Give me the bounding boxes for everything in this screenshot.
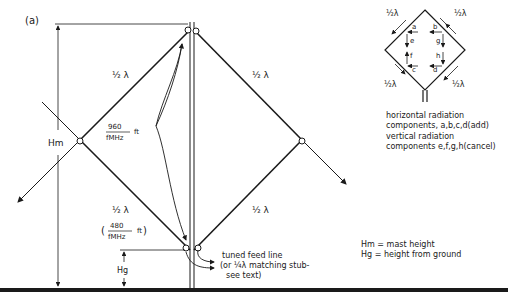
feed-note-line-3: see text) [226, 271, 261, 280]
svg-text:½λ: ½λ [452, 80, 465, 89]
svg-text:fMHz: fMHz [108, 233, 126, 241]
feed-note-line-1: tuned feed line [222, 251, 283, 260]
hg-label: Hg [117, 266, 128, 275]
brace-curve [156, 44, 186, 240]
inset-caption-2: components, a,b,c,d(add) [386, 121, 489, 130]
ground-line [0, 288, 508, 292]
element-label-lower-right: ½ λ [252, 205, 270, 215]
svg-text:f: f [410, 52, 413, 60]
svg-text:h: h [436, 52, 440, 60]
radiation-arrows [18, 102, 346, 202]
hm-label: Hm [48, 138, 64, 148]
element-label-upper-left: ½ λ [112, 70, 130, 80]
panel-label: (a) [25, 15, 39, 26]
svg-text:c: c [412, 66, 416, 74]
svg-text:½λ: ½λ [454, 9, 467, 18]
svg-text:½λ: ½λ [384, 80, 397, 89]
svg-text:ft: ft [134, 128, 139, 136]
quad-antenna-diagram: Hm Hg (a) ½ λ ½ λ ½ λ ½ λ 960 fMHz ft ( … [0, 0, 508, 300]
svg-text:d: d [433, 66, 437, 74]
svg-text:fMHz: fMHz [106, 134, 124, 142]
svg-text:): ) [143, 225, 147, 236]
element-label-lower-left: ½ λ [112, 205, 130, 215]
full-wave-formula: 960 fMHz ft [106, 123, 139, 142]
feed-note-line-2: (or ¼λ matching stub- [220, 261, 310, 270]
svg-text:960: 960 [108, 123, 121, 131]
feed-arrow-1-icon [198, 250, 214, 262]
arrow-right-down-icon [302, 140, 346, 184]
svg-text:ft: ft [137, 227, 142, 235]
legend-hm: Hm = mast height [361, 240, 435, 249]
half-wave-formula: ( 480 fMHz ft ) [101, 222, 147, 241]
legend-hg: Hg = height from ground [361, 250, 461, 259]
inset-diagram: a b c d e f g h ½λ ½λ ½λ ½λ [384, 9, 467, 102]
svg-text:a: a [412, 23, 416, 31]
svg-text:½λ: ½λ [386, 9, 399, 18]
svg-text:480: 480 [110, 222, 123, 230]
arrow-left-down-icon [18, 140, 80, 202]
svg-text:b: b [433, 23, 438, 31]
svg-text:g: g [436, 37, 440, 45]
mast [190, 22, 194, 290]
svg-text:(: ( [101, 225, 105, 236]
inset-caption-3: vertical radiation [386, 132, 454, 141]
inset-caption-4: components e,f,g,h(cancel) [386, 142, 496, 151]
svg-text:e: e [410, 37, 414, 45]
element-label-upper-right: ½ λ [252, 70, 270, 80]
inset-caption-1: horizontal radiation [386, 111, 464, 120]
